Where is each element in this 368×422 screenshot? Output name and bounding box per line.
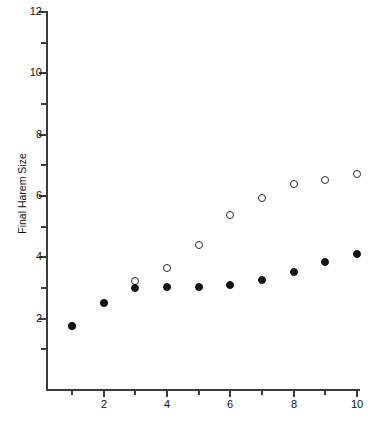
scatter-plot-figure: Final Harem Size 12 10 8 6 4 2 2 4 6 8 1… bbox=[0, 0, 368, 422]
data-point-filled-circles-9 bbox=[321, 258, 329, 266]
data-point-filled-circles-7 bbox=[258, 276, 266, 284]
data-point-filled-circles-6 bbox=[226, 281, 234, 289]
data-point-filled-circles-3 bbox=[131, 284, 139, 292]
data-point-open-circles-10 bbox=[353, 170, 361, 178]
data-point-open-circles-7 bbox=[258, 194, 266, 202]
data-point-open-circles-4 bbox=[163, 264, 171, 272]
data-point-filled-circles-4 bbox=[163, 283, 171, 291]
data-point-open-circles-9 bbox=[321, 176, 329, 184]
data-point-open-circles-6 bbox=[226, 211, 234, 219]
data-point-open-circles-8 bbox=[290, 180, 298, 188]
plot-area bbox=[0, 0, 368, 422]
data-point-filled-circles-5 bbox=[195, 283, 203, 291]
data-point-filled-circles-2 bbox=[100, 299, 108, 307]
data-point-filled-circles-8 bbox=[290, 268, 298, 276]
data-point-filled-circles-1 bbox=[68, 322, 76, 330]
data-point-filled-circles-10 bbox=[353, 250, 361, 258]
data-point-open-circles-5 bbox=[195, 241, 203, 249]
